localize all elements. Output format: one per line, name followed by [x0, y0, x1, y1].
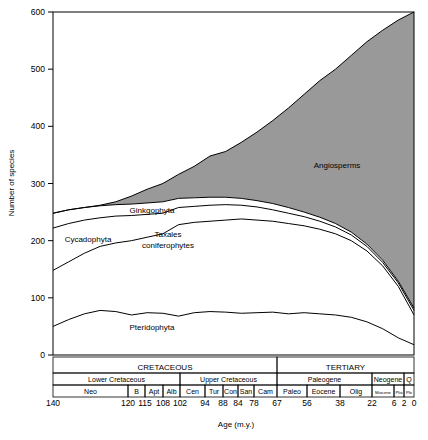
y-axis: 0100200300400500600	[31, 7, 53, 360]
series-label-pteridophyta: Pteridophyta	[130, 323, 175, 332]
x-tick-label: 56	[302, 398, 312, 408]
x-tick-label: 102	[173, 398, 187, 408]
timescale-label-stage: Miocene	[375, 390, 391, 395]
y-tick-label: 300	[31, 179, 45, 189]
timescale-label-stage: Tur	[209, 388, 220, 395]
x-tick-label: 88	[218, 398, 228, 408]
y-axis-title: Number of species	[7, 150, 16, 217]
timescale-label-epoch: Paleogene	[308, 376, 342, 384]
timescale-label-stage: Olig	[350, 388, 363, 396]
x-tick-label: 120	[121, 398, 135, 408]
x-tick-label: 2	[402, 398, 407, 408]
x-axis-title: Age (m.y.)	[218, 420, 255, 429]
x-tick-label: 6	[392, 398, 397, 408]
timescale-label-era: CRETACEOUS	[138, 363, 193, 372]
timescale-label-stage: San	[240, 388, 253, 395]
y-tick-label: 200	[31, 236, 45, 246]
timescale-label-stage: Paleo	[283, 388, 301, 395]
y-tick-label: 500	[31, 64, 45, 74]
timescale-label-stage: Cam	[258, 388, 273, 395]
series-label-ginkgophyta: Ginkgophyta	[130, 206, 175, 215]
series-label-taxales-line1: Taxales	[154, 230, 181, 239]
series-label-cycadophyta: Cycadophyta	[65, 235, 112, 244]
x-tick-label: 78	[249, 398, 259, 408]
series-label-taxales-line2: coniferophytes	[142, 241, 194, 250]
x-tick-label: 22	[367, 398, 377, 408]
timescale-label-epoch: Q	[406, 376, 412, 384]
timescale-label-stage: Cen	[186, 388, 199, 395]
timescale-label-stage: Con	[224, 388, 237, 395]
timescale-label-stage: Plio	[396, 390, 404, 395]
x-tick-label: 0	[412, 398, 417, 408]
x-axis-tick-labels: 1401201151081029488847867563822620	[46, 398, 417, 408]
timescale-label-epoch: Lower Cretaceous	[88, 376, 145, 383]
series-label-angiosperms: Angiosperms	[314, 161, 361, 170]
x-tick-label: 115	[138, 398, 152, 408]
x-tick-label: 67	[272, 398, 282, 408]
x-tick-label: 84	[233, 398, 243, 408]
timescale-label-stage: Eocene	[312, 388, 336, 395]
y-tick-label: 0	[40, 350, 45, 360]
x-tick-label: 108	[156, 398, 170, 408]
timescale-label-stage: Apt	[149, 388, 160, 396]
timescale-label-stage: Neo	[84, 388, 97, 395]
y-tick-label: 600	[31, 7, 45, 17]
timescale-label-era: TERTIARY	[326, 363, 366, 372]
x-tick-label: 94	[200, 398, 210, 408]
y-tick-label: 100	[31, 293, 45, 303]
timescale-label-epoch: Neogene	[374, 376, 403, 384]
x-tick-label: 38	[335, 398, 345, 408]
timescale-label-stage: Ple	[406, 390, 413, 395]
species-diversity-area-chart: 0100200300400500600 Number of species An…	[0, 0, 428, 440]
timescale-label-epoch: Upper Cretaceous	[200, 376, 257, 384]
y-tick-label: 400	[31, 121, 45, 131]
timescale-label-stage: B	[134, 388, 139, 395]
timescale-label-stage: Alb	[166, 388, 176, 395]
x-tick-label: 140	[46, 398, 60, 408]
timescale-table: CRETACEOUSTERTIARYLower CretaceousUpper …	[53, 357, 414, 397]
